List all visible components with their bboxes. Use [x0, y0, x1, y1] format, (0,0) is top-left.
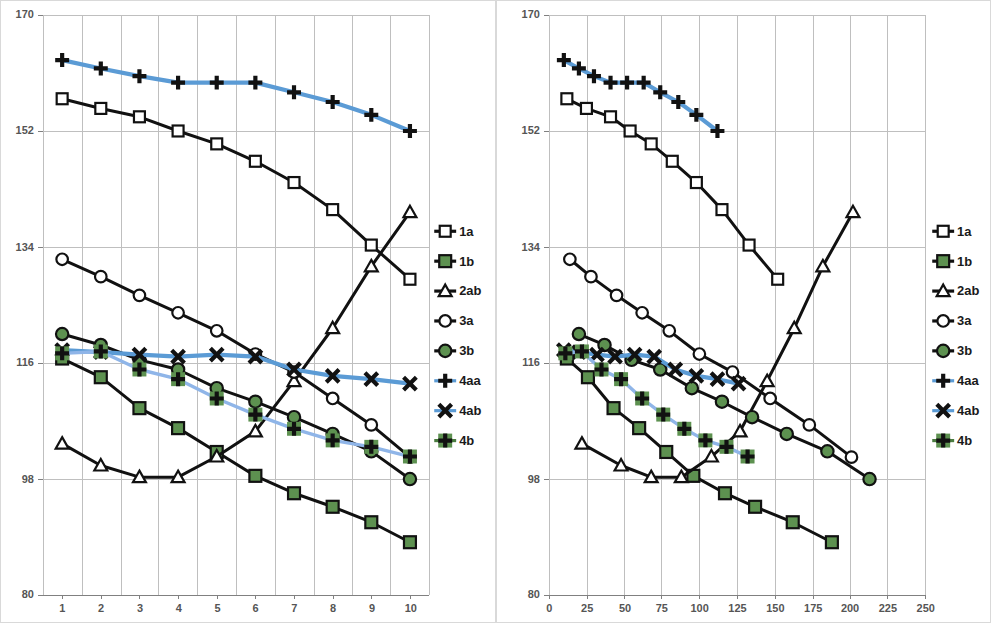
line-chart-left: 8098116134152170123456789101a1b2ab3a3b4a… [1, 1, 495, 622]
marker-plus [287, 85, 301, 99]
marker-triangle-open [403, 206, 416, 217]
marker-circle-open [846, 451, 858, 463]
x-tick-label: 75 [656, 602, 668, 614]
marker-circle-filled [56, 328, 68, 340]
x-tick-label: 175 [804, 602, 822, 614]
legend-item-1b[interactable]: 1b [434, 254, 474, 269]
legend-label-3b: 3b [459, 343, 474, 358]
marker-circle-filled [404, 473, 416, 485]
legend-label-1a: 1a [957, 224, 972, 239]
marker-triangle-open [56, 437, 69, 448]
marker-circle-filled [573, 328, 585, 340]
marker-square-open [561, 93, 572, 104]
marker-circle-open [636, 307, 648, 319]
legend-label-4aa: 4aa [459, 373, 481, 388]
x-tick-label: 225 [879, 602, 897, 614]
series-2ab[interactable] [575, 206, 859, 482]
marker-square-open [646, 138, 657, 149]
x-tick-label: 6 [252, 602, 258, 614]
gridlines [549, 15, 926, 595]
marker-square-filled [288, 487, 300, 499]
x-tick-label: 2 [98, 602, 104, 614]
series-line-2ab [582, 212, 853, 477]
legend-item-2ab[interactable]: 2ab [932, 283, 979, 298]
marker-plus [438, 374, 452, 388]
legend-item-3b[interactable]: 3b [434, 343, 474, 358]
marker-circle-filled [686, 382, 698, 394]
y-tick-label: 134 [522, 241, 541, 253]
marker-square-open [250, 156, 261, 167]
marker-square-open [440, 226, 451, 237]
marker-circle-open [727, 366, 739, 378]
legend-item-1a[interactable]: 1a [434, 224, 474, 239]
legend-item-3b[interactable]: 3b [932, 343, 972, 358]
legend-label-1b: 1b [459, 254, 474, 269]
legend-label-1b: 1b [957, 254, 972, 269]
marker-circle-filled [937, 345, 949, 357]
y-axis-labels: 8098116134152170 [522, 8, 549, 600]
marker-circle-filled [249, 396, 261, 408]
marker-square-filled [719, 487, 731, 499]
legend-label-4ab: 4ab [459, 403, 481, 418]
legend-item-2ab[interactable]: 2ab [434, 283, 481, 298]
legend-item-4aa[interactable]: 4aa [434, 373, 481, 388]
y-tick-label: 152 [522, 124, 540, 136]
y-tick-label: 116 [522, 356, 540, 368]
marker-square-open [625, 125, 636, 136]
marker-square-filled [133, 402, 145, 414]
y-tick-label: 80 [528, 588, 540, 600]
x-tick-label: 3 [137, 602, 143, 614]
y-tick-label: 80 [22, 588, 34, 600]
legend-item-4b[interactable]: 4b [434, 433, 474, 448]
x-tick-label: 125 [728, 602, 746, 614]
x-axis-labels: 0255075100125150175200225250 [546, 595, 935, 614]
marker-circle-filled [781, 428, 793, 440]
x-axis-labels: 12345678910 [59, 595, 417, 614]
y-tick-label: 170 [16, 8, 34, 20]
legend-item-4aa[interactable]: 4aa [932, 373, 979, 388]
marker-square-filled [826, 536, 838, 548]
legend-label-2ab: 2ab [459, 283, 481, 298]
marker-plus [132, 69, 146, 83]
marker-square-filled [365, 516, 377, 528]
marker-circle-open [56, 253, 68, 265]
marker-square-filled [95, 371, 107, 383]
chart-panel-right: 8098116134152170025507510012515017520022… [496, 0, 991, 623]
marker-square-filled [608, 402, 620, 414]
legend-label-3b: 3b [957, 343, 972, 358]
marker-circle-open [585, 271, 597, 283]
legend-item-4ab[interactable]: 4ab [434, 403, 481, 418]
marker-plus [55, 53, 69, 67]
x-tick-label: 25 [581, 602, 593, 614]
legend-item-3a[interactable]: 3a [932, 313, 972, 328]
legend-item-4b[interactable]: 4b [932, 433, 972, 448]
legend-label-3a: 3a [957, 313, 972, 328]
legend-item-4ab[interactable]: 4ab [932, 403, 979, 418]
marker-square-filled [172, 422, 184, 434]
marker-square-open [289, 177, 300, 188]
x-tick-label: 0 [546, 602, 552, 614]
marker-circle-open [564, 253, 576, 265]
marker-circle-open [439, 315, 451, 327]
x-tick-label: 5 [215, 602, 221, 614]
marker-circle-open [804, 419, 816, 431]
marker-triangle-open [94, 459, 107, 470]
marker-circle-open [211, 325, 223, 337]
legend-item-1a[interactable]: 1a [932, 224, 972, 239]
marker-circle-filled [288, 411, 300, 423]
marker-plus [210, 76, 224, 90]
marker-circle-open [663, 325, 675, 337]
x-tick-label: 150 [766, 602, 784, 614]
marker-square-filled [749, 501, 761, 513]
marker-circle-filled [863, 473, 875, 485]
marker-triangle-open [575, 437, 588, 448]
legend-item-1b[interactable]: 1b [932, 254, 972, 269]
marker-plus [364, 108, 378, 122]
marker-triangle-open [761, 375, 774, 386]
legend-item-3a[interactable]: 3a [434, 313, 474, 328]
marker-square-filled [327, 501, 339, 513]
series-1a[interactable] [561, 93, 783, 284]
marker-triangle-open [615, 459, 628, 470]
marker-square-filled [439, 255, 451, 267]
marker-square-filled [582, 371, 594, 383]
